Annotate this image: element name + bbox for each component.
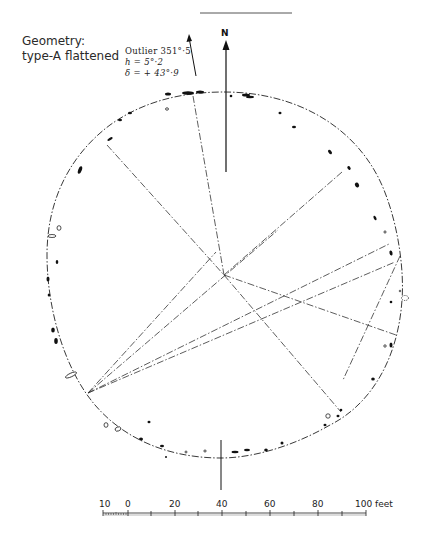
title-line-2: type-A flattened bbox=[22, 49, 119, 64]
scale-label-20: 20 bbox=[169, 499, 180, 509]
title-line-1: Geometry: bbox=[22, 34, 119, 49]
outlier-annotation: Outlier 351°·5 h = 5°·2 δ = + 43°·9 bbox=[125, 46, 191, 79]
scale-label-80: 80 bbox=[312, 499, 323, 509]
scale-label-60: 60 bbox=[264, 499, 275, 509]
north-arrow-icon bbox=[223, 40, 230, 172]
stone-circle-plan bbox=[0, 0, 434, 539]
scale-label-100-feet: 100 feet bbox=[355, 499, 393, 509]
outlier-declination: δ = + 43°·9 bbox=[125, 68, 191, 79]
construction-lines bbox=[88, 96, 400, 412]
outlier-bearing: Outlier 351°·5 bbox=[125, 46, 191, 57]
scale-label-40: 40 bbox=[216, 499, 227, 509]
outlier-altitude: h = 5°·2 bbox=[125, 57, 191, 68]
geometry-title: Geometry: type-A flattened bbox=[22, 34, 119, 64]
scale-label-minus10: 10 bbox=[99, 499, 110, 509]
scale-bar bbox=[103, 510, 366, 516]
north-label: N bbox=[221, 28, 229, 38]
stones-filled bbox=[47, 91, 394, 459]
interior-stone bbox=[390, 301, 392, 303]
scale-label-0: 0 bbox=[125, 499, 131, 509]
